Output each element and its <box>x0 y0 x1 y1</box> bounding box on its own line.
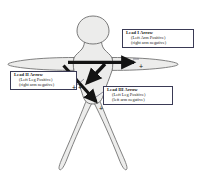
ecg-lead-diagram: Lead I Arrow (Left Arm Positive) (right … <box>0 0 198 179</box>
callout-lead-1: Lead I Arrow (Left Arm Positive) (right … <box>122 29 194 48</box>
callout-lead-3: Lead III Arrow (Left Leg Positive) (left… <box>103 86 173 105</box>
lead-3-positive-marker: + <box>78 84 82 91</box>
lead-2-negative-marker: + <box>72 84 76 91</box>
callout-lead-3-negative: (left arm negative) <box>107 98 170 103</box>
callout-lead-2: Lead II Arrow (Left Leg Positive) (right… <box>10 71 77 90</box>
body-head <box>77 16 109 44</box>
lead-1-positive-marker: + <box>139 63 143 70</box>
lead-2-positive-marker: + <box>99 105 103 112</box>
callout-lead-2-negative: (right arm negative) <box>14 83 74 88</box>
body-leg-right <box>59 96 93 170</box>
callout-lead-1-negative: (right arm negative) <box>126 41 191 46</box>
